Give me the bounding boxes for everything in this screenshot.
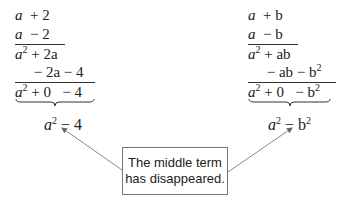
callout-box: The middle term has disappeared. [122, 147, 228, 195]
arrow-right-icon [228, 128, 292, 172]
callout-line-1: The middle term [123, 155, 227, 171]
callout-line-2: has disappeared. [123, 171, 227, 187]
arrow-left-icon [62, 128, 122, 170]
